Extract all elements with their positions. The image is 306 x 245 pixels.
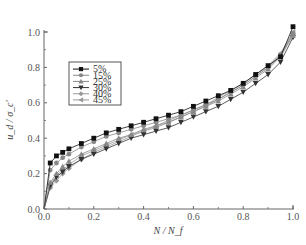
- square-marker-icon: [228, 88, 233, 93]
- square-marker-icon: [179, 109, 184, 114]
- y-tick-label: 0.0: [28, 204, 41, 215]
- square-marker-icon: [60, 150, 65, 155]
- square-marker-icon: [278, 54, 283, 59]
- triangle-down-marker-icon: [178, 120, 184, 125]
- triangle-down-marker-icon: [253, 81, 259, 86]
- circle-marker-icon: [67, 152, 72, 157]
- series-5pct: [44, 24, 295, 209]
- x-tick-label: 0.4: [137, 211, 150, 222]
- y-tick-label: 0.6: [28, 97, 41, 108]
- triangle-down-marker-icon: [240, 90, 246, 95]
- triangle-down-marker-icon: [203, 109, 209, 114]
- triangle-down-marker-icon: [191, 115, 197, 120]
- square-marker-icon: [129, 123, 134, 128]
- square-marker-icon: [48, 161, 53, 166]
- series-15pct: [44, 31, 295, 209]
- circle-marker-icon: [48, 168, 53, 173]
- series-layer: [44, 24, 296, 209]
- triangle-down-marker-icon: [116, 141, 122, 146]
- square-marker-icon: [216, 93, 221, 98]
- y-axis-title: u_d / σ_c': [4, 100, 15, 140]
- square-marker-icon: [79, 67, 83, 71]
- square-marker-icon: [67, 146, 72, 151]
- x-axis-title: N / N_f: [153, 225, 184, 236]
- y-tick-label: 0.8: [28, 62, 41, 73]
- triangle-up-marker-icon: [66, 158, 72, 163]
- legend: 5%15%25%30%40%45%: [69, 62, 121, 105]
- square-marker-icon: [191, 104, 196, 109]
- triangle-down-marker-icon: [215, 104, 221, 109]
- square-marker-icon: [253, 72, 258, 77]
- legend-label: 45%: [93, 94, 111, 105]
- triangle-down-marker-icon: [228, 97, 234, 102]
- y-tick-label: 0.4: [28, 133, 41, 144]
- square-marker-icon: [166, 113, 171, 118]
- triangle-down-marker-icon: [91, 152, 97, 157]
- square-marker-icon: [116, 127, 121, 132]
- circle-marker-icon: [79, 73, 83, 77]
- chart: 0.00.20.40.60.81.00.00.20.40.60.81.0 5%1…: [0, 0, 306, 245]
- square-marker-icon: [241, 81, 246, 86]
- x-tick-label: 0.6: [187, 211, 200, 222]
- square-marker-icon: [141, 120, 146, 125]
- square-marker-icon: [266, 63, 271, 68]
- circle-marker-icon: [291, 31, 296, 36]
- x-tick-label: 1.0: [287, 211, 300, 222]
- square-marker-icon: [104, 130, 109, 135]
- square-marker-icon: [154, 116, 159, 121]
- square-marker-icon: [291, 24, 296, 29]
- x-tick-label: 0.2: [88, 211, 101, 222]
- square-marker-icon: [54, 154, 59, 159]
- x-tick-label: 0.8: [237, 211, 250, 222]
- circle-marker-icon: [54, 161, 59, 166]
- y-tick-label: 0.2: [28, 168, 41, 179]
- circle-marker-icon: [60, 155, 65, 160]
- square-marker-icon: [203, 99, 208, 104]
- triangle-down-marker-icon: [103, 146, 109, 151]
- square-marker-icon: [79, 141, 84, 146]
- y-tick-label: 1.0: [28, 27, 41, 38]
- triangle-down-marker-icon: [265, 72, 271, 77]
- square-marker-icon: [91, 136, 96, 141]
